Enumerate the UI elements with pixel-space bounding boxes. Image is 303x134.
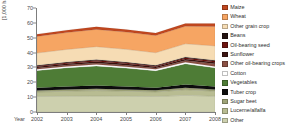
- legend-swatch: [222, 5, 228, 11]
- y-axis-ticks: 010203040506070: [16, 8, 35, 112]
- legend-item[interactable]: Sunflower: [221, 50, 303, 59]
- legend-swatch: [222, 24, 228, 30]
- x-tick-label: 2002: [31, 116, 43, 122]
- x-axis-ticks: 2002200320042005200620072008: [37, 112, 215, 132]
- legend-label: Vegetables: [230, 80, 257, 85]
- legend-item[interactable]: Vegetables: [221, 78, 303, 87]
- legend-item[interactable]: Beans: [221, 31, 303, 40]
- legend-swatch: [222, 52, 228, 58]
- y-tick-mark: [33, 8, 36, 9]
- legend-label: Sunflower: [230, 52, 254, 57]
- x-tick-mark: [37, 112, 38, 115]
- legend-item[interactable]: Other oil-bearing crops: [221, 59, 303, 68]
- legend-swatch: [222, 14, 228, 20]
- y-tick-mark: [33, 22, 36, 23]
- plot-block: [1,000 ha] 010203040506070 2002200320042…: [0, 0, 220, 134]
- stacked-area-series: [37, 8, 215, 112]
- legend-item[interactable]: Oil-bearing seed: [221, 41, 303, 50]
- legend-item[interactable]: Cotton: [221, 69, 303, 78]
- legend-item[interactable]: Other: [221, 116, 303, 125]
- legend-item[interactable]: Tuber crop: [221, 88, 303, 97]
- legend-swatch: [222, 89, 228, 95]
- legend-swatch: [222, 61, 228, 67]
- y-tick-mark: [33, 97, 36, 98]
- y-tick-mark: [33, 52, 36, 53]
- legend-swatch: [222, 80, 228, 86]
- chart-legend: MaizeWheatOther grain cropBeansOil-beari…: [221, 3, 303, 131]
- x-tick-mark: [185, 112, 186, 115]
- area-band: [37, 95, 215, 112]
- x-tick-label: 2003: [61, 116, 73, 122]
- legend-label: Maize: [230, 5, 244, 10]
- legend-item[interactable]: Lucerne/alfalfa: [221, 106, 303, 115]
- legend-label: Other grain crop: [230, 24, 269, 29]
- y-tick-mark: [33, 37, 36, 38]
- plot-area: [37, 8, 215, 112]
- legend-swatch: [222, 42, 228, 48]
- x-tick-label: 2004: [90, 116, 102, 122]
- legend-item[interactable]: Maize: [221, 3, 303, 12]
- y-tick-mark: [33, 67, 36, 68]
- x-tick-mark: [156, 112, 157, 115]
- legend-item[interactable]: Sugar beet: [221, 97, 303, 106]
- x-tick-label: 2007: [179, 116, 191, 122]
- y-axis-title: [1,000 ha]: [1, 0, 7, 34]
- legend-item[interactable]: Wheat: [221, 12, 303, 21]
- legend-label: Sugar beet: [230, 99, 256, 104]
- x-tick-mark: [215, 112, 216, 115]
- legend-label: Other oil-bearing crops: [230, 61, 285, 66]
- chart-figure: [1,000 ha] 010203040506070 2002200320042…: [0, 0, 303, 134]
- legend-swatch: [222, 71, 228, 77]
- legend-label: Wheat: [230, 14, 246, 19]
- legend-item[interactable]: Other grain crop: [221, 22, 303, 31]
- x-tick-mark: [67, 112, 68, 115]
- x-tick-label: 2008: [209, 116, 221, 122]
- legend-label: Other: [230, 118, 243, 123]
- x-tick-mark: [96, 112, 97, 115]
- legend-label: Beans: [230, 33, 245, 38]
- legend-label: Oil-bearing seed: [230, 43, 270, 48]
- x-tick-label: 2006: [150, 116, 162, 122]
- legend-label: Lucerne/alfalfa: [230, 108, 265, 113]
- x-axis-title: Year: [14, 116, 25, 122]
- legend-swatch: [222, 33, 228, 39]
- legend-swatch: [222, 108, 228, 114]
- x-tick-label: 2005: [120, 116, 132, 122]
- legend-label: Tuber crop: [230, 90, 256, 95]
- y-tick-mark: [33, 82, 36, 83]
- y-tick-mark: [33, 112, 36, 113]
- legend-label: Cotton: [230, 71, 246, 76]
- legend-swatch: [222, 99, 228, 105]
- legend-swatch: [222, 118, 228, 124]
- x-tick-mark: [126, 112, 127, 115]
